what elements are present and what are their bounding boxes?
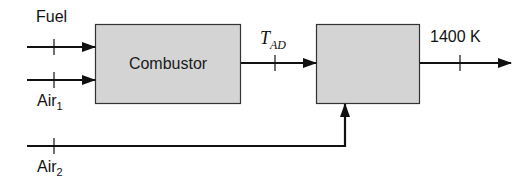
- output-stream-arrow: [420, 55, 511, 71]
- combustor-label: Combustor: [95, 55, 241, 73]
- mixer-block: [317, 25, 420, 104]
- fuel-stream-arrow: [27, 39, 95, 55]
- air2-stream-arrow: [27, 104, 345, 154]
- air1-stream-arrow: [27, 72, 95, 88]
- tad-stream-arrow: [241, 55, 316, 71]
- air2-label: Air2: [37, 159, 63, 178]
- output-temperature-label: 1400 K: [430, 29, 481, 45]
- air1-label: Air1: [37, 93, 63, 112]
- tad-label: TAD: [260, 29, 286, 51]
- fuel-label: Fuel: [36, 9, 67, 25]
